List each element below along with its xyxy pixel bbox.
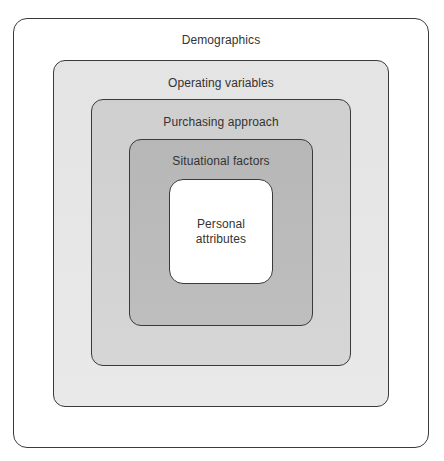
layer-label-personal-attributes: Personal attributes bbox=[196, 217, 246, 247]
layer-label-situational-factors: Situational factors bbox=[130, 154, 312, 168]
layer-label-purchasing-approach: Purchasing approach bbox=[92, 115, 350, 129]
layer-personal-attributes: Personal attributes bbox=[169, 179, 273, 284]
layer-label-operating-variables: Operating variables bbox=[54, 76, 388, 90]
layer-label-demographics: Demographics bbox=[14, 33, 428, 47]
